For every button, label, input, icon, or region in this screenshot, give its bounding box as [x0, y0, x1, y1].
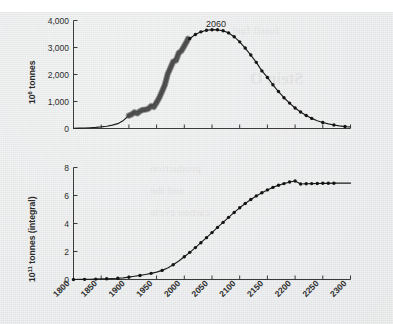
bottom-cumulative-curve — [74, 181, 351, 280]
xtick-2250: 2250 — [300, 278, 321, 299]
xtick-2100: 2100 — [217, 278, 238, 299]
bottom-ytick-6: 6 — [64, 191, 69, 201]
top-ytick-2000: 2,000 — [48, 70, 70, 80]
bottom-y-axis-title: 1011 tonnes (integral) — [27, 196, 37, 282]
xtick-2000: 2000 — [162, 278, 183, 299]
xtick-2150: 2150 — [245, 278, 266, 299]
xtick-2050: 2050 — [189, 278, 210, 299]
bottom-ytick-8: 8 — [64, 163, 69, 173]
bottom-y-suffix: tonnes (integral) — [27, 196, 37, 266]
bottom-y-mantissa: 10 — [27, 272, 37, 282]
chart-svg: 106 tonnes 4,000 3,000 2,000 1,000 0 — [0, 0, 393, 324]
top-y-suffix: tonnes — [27, 60, 37, 91]
top-ytick-4000: 4,000 — [48, 16, 70, 26]
bottom-ytick-2: 2 — [64, 247, 69, 257]
top-ytick-3000: 3,000 — [48, 43, 70, 53]
top-y-axis-title: 106 tonnes — [27, 60, 37, 104]
top-y-ticks — [74, 21, 78, 129]
xtick-2300: 2300 — [328, 278, 349, 299]
xtick-1950: 1950 — [134, 278, 155, 299]
top-production-curve — [74, 30, 351, 129]
top-y-mantissa: 10 — [27, 94, 37, 104]
top-curve-markers — [188, 28, 347, 128]
top-x-ticks — [74, 125, 351, 129]
xtick-2200: 2200 — [273, 278, 294, 299]
peak-year-annotation: 2060 — [206, 19, 226, 29]
bottom-ytick-4: 4 — [64, 219, 69, 229]
bottom-y-ticks — [74, 168, 78, 280]
bottom-x-tick-labels: 1800 1850 1900 1950 2000 2050 2100 2150 … — [51, 278, 349, 299]
top-ytick-0: 0 — [64, 124, 69, 134]
top-panel: 106 tonnes 4,000 3,000 2,000 1,000 0 — [27, 16, 351, 134]
bottom-curve-markers — [72, 179, 336, 281]
bottom-panel: 1011 tonnes (integral) 8 6 4 2 0 — [27, 163, 351, 299]
top-ytick-1000: 1,000 — [48, 97, 70, 107]
xtick-1900: 1900 — [106, 278, 127, 299]
xtick-1850: 1850 — [79, 278, 100, 299]
figure-root: fossil fuel Stein O production and the c… — [0, 0, 393, 324]
